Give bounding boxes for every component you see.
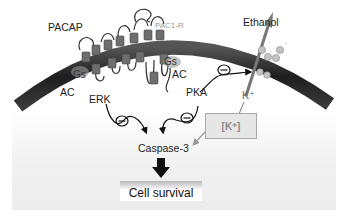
- caspase-to-survival-arrow: [152, 158, 170, 178]
- ac-left-label: AC: [60, 87, 75, 98]
- inhibition-icon: [218, 65, 230, 75]
- pka-label: PKA: [186, 87, 207, 98]
- pac1r-label: PAC1-R: [155, 22, 184, 30]
- ethanol-label: Ethanol: [243, 17, 279, 28]
- k-ion-label: K⁺: [242, 90, 255, 101]
- erk-label: ERK: [89, 94, 111, 105]
- pacap-label: PACAP: [48, 22, 83, 33]
- kbox-to-caspase-arrow: [194, 132, 205, 144]
- gs-right-label: Gs: [164, 57, 177, 67]
- caspase-label: Caspase-3: [138, 143, 189, 154]
- gs-left-label: Gs: [73, 70, 86, 80]
- cell-survival-box: Cell survival: [120, 181, 202, 201]
- inhibition-icon: [116, 116, 128, 126]
- ac-right-label: AC: [172, 69, 187, 80]
- k-concentration-box: [K⁺]: [205, 113, 257, 139]
- svg-text:+: +: [285, 40, 288, 45]
- svg-text:+: +: [268, 39, 271, 44]
